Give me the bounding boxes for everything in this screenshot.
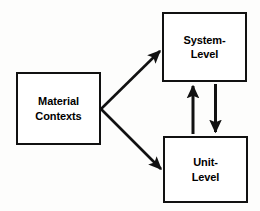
node-material-contexts[interactable]: Material Contexts [16,72,101,145]
node-unit-level-label: Unit- Level [192,155,220,183]
node-system-level-label: System- Level [183,33,225,61]
node-system-level[interactable]: System- Level [162,12,247,82]
node-material-contexts-label: Material Contexts [35,94,81,122]
edge-material-to-unit [101,109,161,169]
node-unit-level[interactable]: Unit- Level [163,136,248,203]
edge-material-to-system [101,51,160,109]
diagram-canvas: Material Contexts System- Level Unit- Le… [0,0,260,211]
